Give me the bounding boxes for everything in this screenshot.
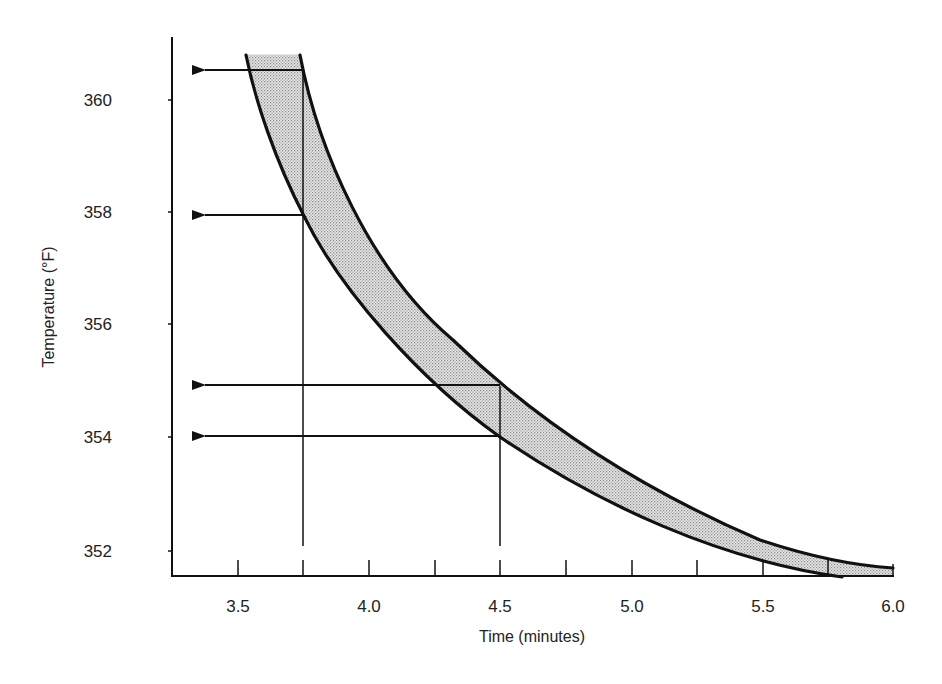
y-tick-label: 358	[84, 203, 112, 222]
x-tick-label: 5.5	[751, 597, 775, 616]
x-tick-label: 5.0	[620, 597, 644, 616]
x-ticks	[238, 560, 828, 576]
lower-curve	[246, 55, 842, 577]
x-tick-label: 4.0	[357, 597, 381, 616]
tolerance-band-fill	[246, 55, 893, 577]
x-tick-label: 4.5	[488, 597, 512, 616]
x-tick-label: 3.5	[226, 597, 250, 616]
y-tick-label: 356	[84, 315, 112, 334]
y-tick-label: 352	[84, 542, 112, 561]
x-axis-title: Time (minutes)	[479, 628, 585, 645]
y-tick-label: 354	[84, 428, 112, 447]
y-axis-title: Temperature (°F)	[40, 246, 57, 367]
y-tick-label: 360	[84, 91, 112, 110]
y-tick-labels: 360 358 356 354 352	[84, 91, 112, 561]
temperature-time-chart: 360 358 356 354 352 3.5 4.0 4.5 5.0 5.5 …	[0, 0, 942, 684]
x-tick-labels: 3.5 4.0 4.5 5.0 5.5 6.0	[226, 597, 905, 616]
x-tick-label: 6.0	[881, 597, 905, 616]
